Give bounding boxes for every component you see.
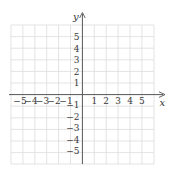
y-tick-labels-negative: −1 −2 −3 −4 −5 xyxy=(66,100,80,156)
y-tick-label: 3 xyxy=(74,55,80,65)
coordinate-plane: x y −5 −4 −3 −2 −1 1 2 3 4 5 5 4 3 2 1 −… xyxy=(0,0,170,170)
x-tick-label: 5 xyxy=(139,96,145,106)
y-tick-label: −5 xyxy=(66,146,80,156)
y-tick-label: −1 xyxy=(66,100,79,110)
x-axis-label: x xyxy=(160,97,166,108)
x-tick-label: 2 xyxy=(103,96,109,106)
x-tick-labels-positive: 1 2 3 4 5 xyxy=(91,96,145,106)
x-tick-label: 4 xyxy=(127,96,133,106)
y-tick-label: 1 xyxy=(74,78,80,88)
y-tick-label: −2 xyxy=(66,112,79,122)
x-tick-label: 3 xyxy=(115,96,121,106)
y-tick-label: −3 xyxy=(66,123,80,133)
x-tick-labels-negative: −5 −4 −3 −2 −1 xyxy=(13,96,72,106)
y-tick-labels-positive: 5 4 3 2 1 xyxy=(74,32,80,88)
x-tick-label: 1 xyxy=(91,96,97,106)
y-tick-label: 4 xyxy=(74,44,80,54)
y-axis-label: y xyxy=(72,11,79,22)
y-tick-label: 2 xyxy=(74,67,80,77)
y-tick-label: −4 xyxy=(66,135,80,145)
y-tick-label: 5 xyxy=(74,32,80,42)
